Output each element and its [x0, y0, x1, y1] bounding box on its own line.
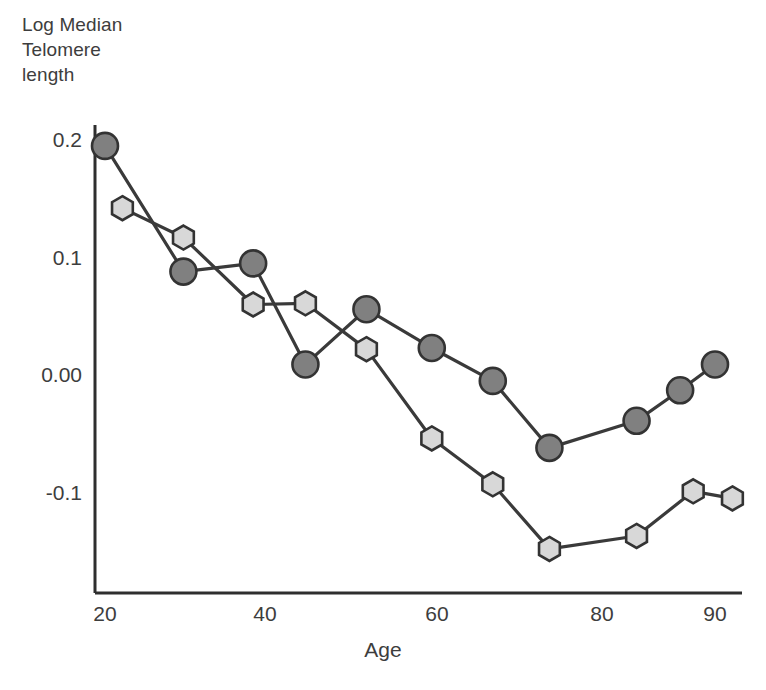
data-point-marker	[243, 293, 264, 317]
data-point-marker	[421, 426, 442, 450]
series-dark-circles-markers	[92, 133, 728, 461]
data-point-marker	[170, 259, 196, 285]
data-point-marker	[353, 296, 379, 322]
data-line	[122, 208, 732, 549]
data-point-marker	[683, 479, 704, 503]
axis-lines	[95, 125, 742, 593]
series-dark-circles-line	[105, 146, 715, 448]
data-point-marker	[419, 335, 445, 361]
data-point-marker	[173, 226, 194, 250]
data-point-marker	[240, 250, 266, 276]
data-point-marker	[702, 351, 728, 377]
data-point-marker	[626, 524, 647, 548]
series-light-hexagons-line	[122, 208, 732, 549]
data-point-marker	[624, 408, 650, 434]
plot-area	[0, 0, 766, 690]
data-point-marker	[295, 291, 316, 315]
series-light-hexagons-markers	[112, 196, 743, 561]
data-point-marker	[112, 196, 133, 220]
data-point-marker	[92, 133, 118, 159]
data-point-marker	[482, 472, 503, 496]
data-point-marker	[536, 435, 562, 461]
data-point-marker	[480, 368, 506, 394]
telomere-length-chart: Log Median Telomere length 0.2 0.1 0.00 …	[0, 0, 766, 690]
data-point-marker	[292, 351, 318, 377]
data-point-marker	[667, 377, 693, 403]
data-point-marker	[722, 486, 743, 510]
data-line	[105, 146, 715, 448]
data-point-marker	[539, 537, 560, 561]
data-point-marker	[356, 337, 377, 361]
